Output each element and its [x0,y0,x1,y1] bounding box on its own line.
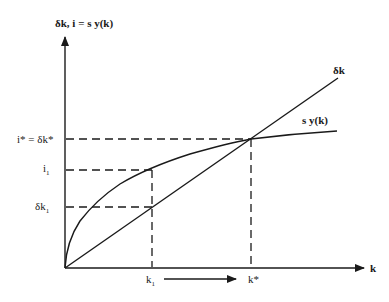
depreciation-line-label: δk [333,64,346,76]
y-axis-label: δk, i = s y(k) [55,17,113,30]
dk1-label: δk1 [35,200,50,215]
steady-state-label: i* = δk* [17,133,53,145]
kstar-label: k* [248,273,259,285]
investment-curve [65,131,337,268]
x-axis-label: k [370,262,377,274]
investment-curve-label: s y(k) [302,114,328,127]
solow-diagram: δk, i = s y(k) k δk s y(k) i* = δk* i1 δ… [0,0,389,302]
k1-label: k1 [146,273,156,288]
depreciation-line [65,78,338,268]
i1-label: i1 [43,162,50,177]
